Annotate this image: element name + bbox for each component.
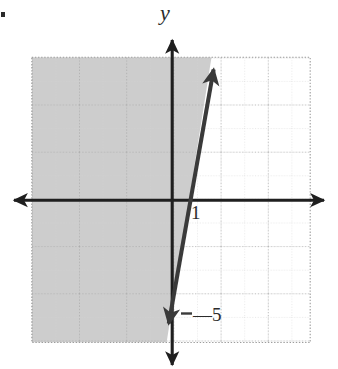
y-intercept-label: —5 bbox=[193, 305, 222, 324]
y-axis-label: y bbox=[160, 2, 170, 24]
coordinate-plane-figure bbox=[0, 0, 338, 369]
x-intercept-label: 1 bbox=[191, 203, 201, 222]
